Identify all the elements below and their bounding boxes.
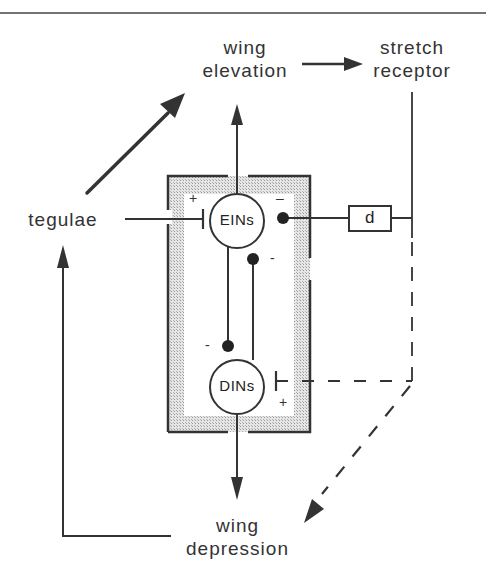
arrowhead-icon bbox=[231, 477, 243, 500]
inhibitory-synapse-icon bbox=[222, 340, 234, 352]
arrowhead-icon bbox=[231, 104, 243, 125]
circuit-diagram bbox=[0, 0, 486, 588]
depression-to-tegulae-line bbox=[63, 262, 171, 536]
sign-dins-eins: - bbox=[270, 250, 275, 266]
wing-depression-label: wing depression bbox=[175, 514, 300, 560]
tegulae-label: tegulae bbox=[18, 208, 108, 231]
wing-elevation-label: wing elevation bbox=[190, 36, 300, 82]
stretch-receptor-line1: stretch bbox=[362, 36, 462, 59]
inhibitory-synapse-icon bbox=[277, 212, 289, 224]
wing-depression-line2: depression bbox=[175, 537, 300, 560]
wing-elevation-line2: elevation bbox=[190, 59, 300, 82]
inhibitory-synapse-icon bbox=[247, 253, 259, 265]
receptor-to-depression-dashed-line bbox=[322, 386, 410, 494]
sign-stretch-dins: + bbox=[279, 394, 287, 410]
sign-tegulae-eins: + bbox=[189, 190, 197, 206]
wing-depression-line1: wing bbox=[175, 514, 300, 537]
sign-stretch-eins: – bbox=[276, 190, 284, 206]
arrowhead-icon bbox=[160, 93, 185, 118]
arrowhead-icon bbox=[344, 57, 363, 71]
arrowhead-icon bbox=[57, 245, 69, 268]
wing-elevation-line1: wing bbox=[190, 36, 300, 59]
stretch-receptor-label: stretch receptor bbox=[362, 36, 462, 82]
sign-eins-dins: - bbox=[205, 337, 210, 353]
delay-label: d bbox=[349, 208, 391, 228]
arrowhead-icon bbox=[304, 499, 324, 523]
stretch-receptor-line2: receptor bbox=[362, 59, 462, 82]
tegulae-to-elevation-line bbox=[87, 113, 168, 193]
dins-label: DINs bbox=[210, 377, 264, 394]
eins-label: EINs bbox=[210, 211, 264, 228]
